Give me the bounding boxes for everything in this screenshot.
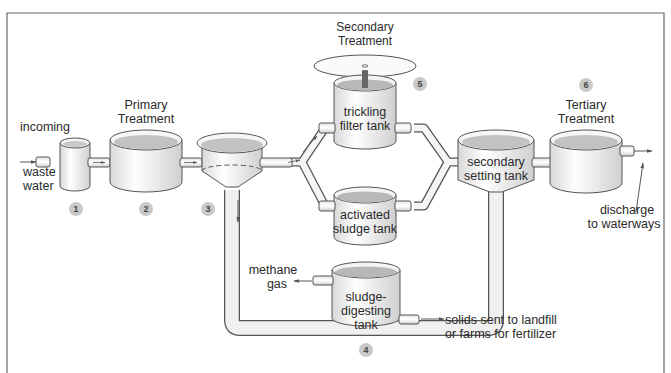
label-tank: tank xyxy=(336,318,396,332)
label-trickling: trickling xyxy=(335,105,395,119)
step-badge-5: 5 xyxy=(413,77,427,91)
label-tertiary-treatment: Treatment xyxy=(556,112,616,126)
step-badge-2: 2 xyxy=(139,202,153,216)
step-badge-3: 3 xyxy=(201,202,215,216)
label-primary-treatment: Treatment xyxy=(116,112,176,126)
label-methane: methane xyxy=(248,263,298,277)
step-badge-4: 4 xyxy=(359,343,373,357)
label-to-waterways: to waterways xyxy=(582,217,666,231)
label-digesting: digesting xyxy=(336,304,396,318)
tank-primary xyxy=(110,130,182,192)
label-gas: gas xyxy=(262,277,292,291)
tank-primary-settling xyxy=(197,133,267,187)
label-secondary: Secondary xyxy=(330,20,400,34)
tank-incoming xyxy=(60,138,90,191)
label-sludge-tank: sludge tank xyxy=(333,222,397,236)
label-incoming: incoming xyxy=(20,120,70,134)
label-sludge: sludge- xyxy=(336,290,396,304)
label-setting-tank: setting tank xyxy=(458,169,534,183)
label-primary: Primary xyxy=(116,98,176,112)
step-badge-6: 6 xyxy=(579,78,593,92)
label-filter-tank: filter tank xyxy=(335,119,395,133)
step-badge-1: 1 xyxy=(69,202,83,216)
label-secondary-setting: secondary xyxy=(458,155,534,169)
label-solids: solids sent to landfill xyxy=(445,313,557,327)
tank-trickling-filter xyxy=(314,55,416,149)
label-tertiary: Tertiary xyxy=(556,98,616,112)
label-activated: activated xyxy=(333,208,397,222)
label-farms: or farms for fertilizer xyxy=(445,327,556,341)
label-discharge: discharge xyxy=(590,203,664,217)
label-waste: waste xyxy=(23,165,56,179)
label-secondary-treatment: Treatment xyxy=(330,34,400,48)
tank-tertiary xyxy=(550,130,622,193)
label-water: water xyxy=(23,179,54,193)
